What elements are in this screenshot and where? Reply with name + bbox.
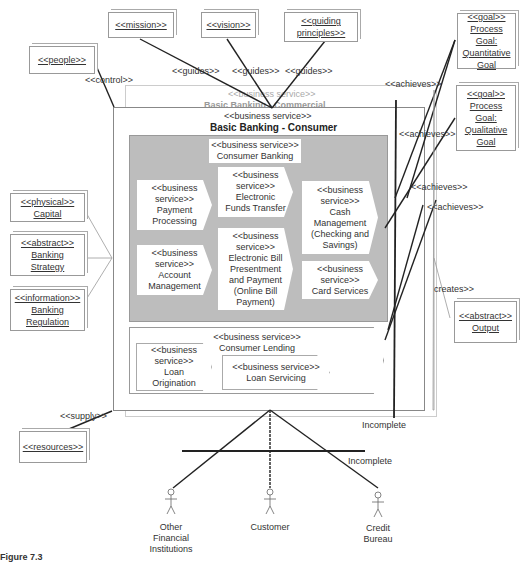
note-people[interactable]: <<people>> [29,46,95,74]
label-guides-2: <<guides>> [232,66,280,76]
note-resources[interactable]: <<resources>> [19,431,87,463]
label-achieves-3: <<achieves>> [411,182,468,192]
figure-caption: Figure 7.3 [0,552,43,562]
actor-credit-bureau-figure [372,492,384,517]
actor-customer[interactable]: Customer [240,522,300,533]
achieves-line-5 [388,205,423,330]
regulation-line [84,258,112,303]
capital-line [84,209,112,258]
note-vision[interactable]: <<vision>> [201,12,256,38]
control-line [95,63,114,107]
label-control: <<control>> [85,75,133,85]
note-output[interactable]: <<abstract>>Output [454,301,517,343]
label-achieves-4: <<achieves>> [427,202,484,212]
actor-credit-bureau[interactable]: CreditBureau [352,523,404,545]
label-incomplete-1: Incomplete [362,420,406,430]
note-banking-strategy[interactable]: <<abstract>>BankingStrategy [10,234,85,276]
note-capital[interactable]: <<physical>>Capital [10,193,85,222]
note-banking-regulation[interactable]: <<information>>BankingRegulation [10,289,85,331]
actor-customer-figure [264,489,276,514]
label-creates: creates>> [434,284,474,294]
note-goal-quantitative[interactable]: <<goal>>ProcessGoal:QuantitativeGoal [457,13,516,69]
label-achieves-1: <<achieves>> [385,79,442,89]
note-mission[interactable]: <<mission>> [108,12,174,38]
achieves-line-1 [395,40,455,198]
label-achieves-2: <<achieves>> [399,129,456,139]
label-guides-3: <<guides>> [285,66,333,76]
label-supply: <<supply>> [60,411,107,421]
actor-other-fi-figure [165,489,177,514]
actor-line-other-fi [173,410,270,488]
achieves-line-2 [407,40,455,198]
achieves-line-4 [385,200,436,340]
note-guiding-principles[interactable]: <<guidingprinciples>> [284,12,358,42]
incomplete-line-1 [394,100,396,418]
label-incomplete-2: Incomplete [348,456,392,466]
actor-other-financial-institutions[interactable]: OtherFinancialInstitutions [140,522,202,555]
note-goal-qualitative[interactable]: <<goal>>ProcessGoal:QualitativeGoal [456,85,516,151]
label-guides-1: <<guides>> [172,66,220,76]
